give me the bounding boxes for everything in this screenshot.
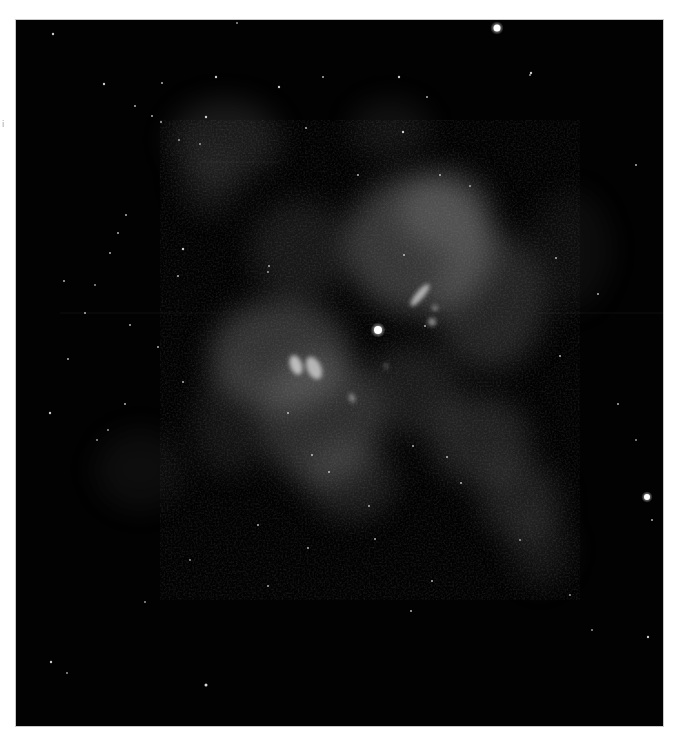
star (494, 25, 501, 32)
star (651, 519, 653, 521)
star (460, 482, 462, 484)
side-mark: i (2, 120, 6, 130)
star (431, 580, 433, 582)
star (446, 456, 448, 458)
star (597, 293, 599, 295)
star (117, 232, 119, 234)
star (257, 524, 259, 526)
star (403, 254, 405, 256)
star (412, 445, 414, 447)
star (205, 684, 208, 687)
star (66, 672, 68, 674)
star (287, 412, 289, 414)
star (267, 585, 269, 587)
star (129, 324, 131, 326)
star (519, 539, 521, 541)
star (67, 358, 69, 360)
star (107, 429, 109, 431)
star (368, 505, 370, 507)
star (267, 271, 269, 273)
star (322, 76, 324, 78)
star (157, 346, 159, 348)
star (134, 105, 136, 107)
star (124, 403, 126, 405)
star (161, 82, 163, 84)
star (178, 139, 180, 141)
nebula-image-canvas (16, 20, 663, 726)
star (569, 594, 571, 596)
star (469, 185, 471, 187)
star (49, 412, 51, 414)
star (635, 164, 637, 166)
star (374, 538, 376, 540)
star (398, 76, 400, 78)
star (307, 547, 309, 549)
nebula-texture (160, 120, 580, 600)
star (278, 86, 280, 88)
star (96, 439, 98, 441)
star (50, 661, 52, 663)
star (402, 131, 404, 133)
star (144, 601, 146, 603)
star (328, 471, 330, 473)
star (357, 174, 359, 176)
page: i (0, 0, 692, 741)
star (439, 174, 441, 176)
star (591, 629, 593, 631)
star (374, 326, 382, 334)
star (635, 439, 637, 441)
star (530, 72, 532, 74)
star (125, 214, 127, 216)
star (559, 355, 561, 357)
star (94, 284, 96, 286)
star (529, 74, 531, 76)
star (199, 143, 201, 145)
star (177, 275, 179, 277)
star (236, 22, 238, 24)
star (215, 76, 217, 78)
star (555, 257, 557, 259)
star (182, 381, 184, 383)
nebula-image (16, 20, 663, 726)
star (160, 121, 162, 123)
star (617, 403, 619, 405)
star (305, 127, 307, 129)
star (189, 559, 191, 561)
star (424, 325, 426, 327)
star (205, 116, 207, 118)
star (182, 248, 184, 250)
star (151, 115, 153, 117)
star (311, 454, 313, 456)
star (103, 83, 105, 85)
star (647, 636, 649, 638)
star (644, 494, 650, 500)
star (109, 252, 111, 254)
star (410, 610, 412, 612)
star (426, 96, 428, 98)
star (63, 280, 65, 282)
star (268, 265, 270, 267)
star (84, 312, 86, 314)
star (52, 33, 54, 35)
